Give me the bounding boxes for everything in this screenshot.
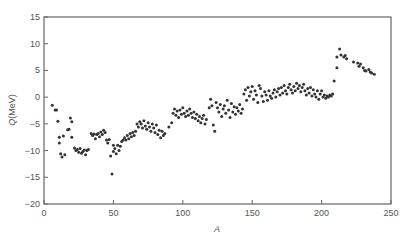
data-point xyxy=(241,107,244,110)
data-point xyxy=(192,111,195,114)
data-point xyxy=(320,89,323,92)
data-point xyxy=(136,122,139,125)
x-axis-label: A xyxy=(213,224,220,234)
data-point xyxy=(270,97,273,100)
data-point xyxy=(308,91,311,94)
y-tick-label: −5 xyxy=(30,119,40,129)
data-point xyxy=(299,90,302,93)
data-point xyxy=(310,95,313,98)
data-point xyxy=(317,98,320,101)
y-axis-label-group: Q(MeV) xyxy=(7,94,17,126)
data-point xyxy=(226,99,229,102)
data-point xyxy=(352,60,355,63)
data-point xyxy=(331,92,334,95)
data-point xyxy=(58,136,61,139)
y-axis-unit: (MeV) xyxy=(7,94,17,119)
data-point xyxy=(58,142,61,145)
data-point xyxy=(212,123,215,126)
y-tick-label: −20 xyxy=(25,199,40,209)
data-point xyxy=(316,89,319,92)
data-point xyxy=(159,136,162,139)
data-point xyxy=(262,100,265,103)
data-point xyxy=(259,87,262,90)
data-point xyxy=(313,92,316,95)
data-point xyxy=(345,57,348,60)
data-point xyxy=(198,115,201,118)
data-point xyxy=(84,153,87,156)
data-point xyxy=(283,84,286,87)
data-point xyxy=(235,106,238,109)
data-point xyxy=(201,117,204,120)
x-tick-label: 250 xyxy=(383,208,398,218)
data-point xyxy=(298,84,301,87)
data-point xyxy=(276,90,279,93)
data-point xyxy=(116,144,119,147)
data-point xyxy=(140,122,143,125)
data-point xyxy=(134,130,137,133)
data-point xyxy=(101,133,104,136)
data-point xyxy=(294,89,297,92)
data-point xyxy=(202,114,205,117)
data-point xyxy=(315,96,318,99)
data-point xyxy=(247,86,250,89)
data-point xyxy=(274,96,277,99)
data-point xyxy=(209,98,212,101)
data-point xyxy=(306,87,309,90)
data-point xyxy=(61,156,64,159)
data-point xyxy=(179,109,182,112)
data-point xyxy=(223,104,226,107)
data-point xyxy=(131,131,134,134)
data-point xyxy=(145,128,148,131)
data-point xyxy=(176,110,179,113)
data-point xyxy=(292,85,295,88)
data-point xyxy=(255,94,258,97)
data-point xyxy=(219,103,222,106)
data-point xyxy=(245,99,248,102)
x-tick-label: 50 xyxy=(108,208,118,218)
data-point xyxy=(173,107,176,110)
scatter-chart: −20−15−10−5051015 050100150200250 A Q(Me… xyxy=(0,0,413,242)
data-point xyxy=(233,105,236,108)
data-point xyxy=(186,110,189,113)
data-point xyxy=(148,126,151,129)
data-point xyxy=(256,101,259,104)
data-point xyxy=(195,113,198,116)
data-point xyxy=(112,150,115,153)
data-point xyxy=(144,125,147,128)
data-point xyxy=(55,109,58,112)
data-point xyxy=(68,128,71,131)
data-point xyxy=(373,73,376,76)
data-point xyxy=(305,94,308,97)
data-point xyxy=(184,115,187,118)
data-point xyxy=(333,80,336,83)
data-point xyxy=(263,90,266,93)
x-tick-label: 0 xyxy=(41,208,46,218)
data-point xyxy=(302,83,305,86)
data-point xyxy=(267,89,270,92)
data-point xyxy=(199,121,202,124)
data-point xyxy=(147,121,150,124)
x-tick-label: 200 xyxy=(314,208,329,218)
data-point xyxy=(115,152,118,155)
data-point xyxy=(234,113,237,116)
y-tick-label: 0 xyxy=(35,92,40,102)
data-point xyxy=(113,147,116,150)
data-point xyxy=(130,135,133,138)
y-tick-label: −10 xyxy=(25,146,40,156)
y-tick-label: −15 xyxy=(25,172,40,182)
data-point xyxy=(208,106,211,109)
data-point xyxy=(242,92,245,95)
data-point xyxy=(210,104,213,107)
data-point xyxy=(155,123,158,126)
data-point xyxy=(183,112,186,115)
data-point xyxy=(151,122,154,125)
data-point xyxy=(260,95,263,98)
y-tick-label: 15 xyxy=(30,12,40,22)
data-point xyxy=(187,114,190,117)
data-point xyxy=(229,116,232,119)
data-point xyxy=(174,114,177,117)
data-point xyxy=(252,98,255,101)
data-point xyxy=(215,101,218,104)
data-point xyxy=(124,138,127,141)
data-point xyxy=(273,88,276,91)
